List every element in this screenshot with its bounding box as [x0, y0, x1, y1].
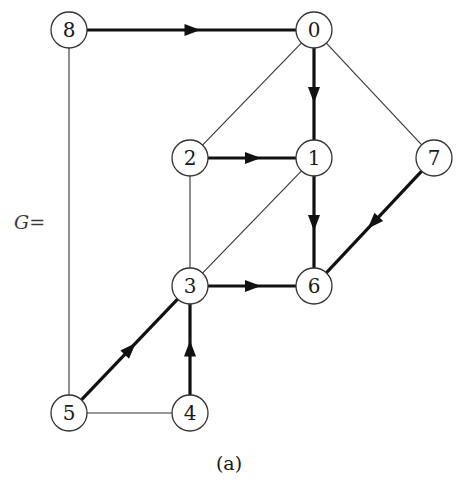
node-label: 5 [63, 401, 76, 425]
edge-0-7 [326, 43, 421, 145]
directed-edge-0-1 [308, 48, 320, 140]
node-5: 5 [51, 395, 87, 431]
arrowhead-icon [308, 87, 320, 103]
directed-edge-1-6 [308, 176, 320, 268]
arrowhead-icon [245, 152, 261, 164]
directed-edge-5-3 [81, 299, 177, 400]
node-6: 6 [296, 268, 332, 304]
node-7: 7 [416, 140, 452, 176]
arrowhead-icon [185, 24, 201, 36]
graph-diagram: 802173654 G= (a) [0, 0, 458, 495]
node-3: 3 [172, 268, 208, 304]
node-0: 0 [296, 12, 332, 48]
node-label: 4 [184, 401, 197, 425]
edge-1-3 [203, 171, 302, 273]
arrowhead-icon [245, 280, 261, 292]
directed-edge-2-1 [208, 152, 296, 164]
node-label: 1 [308, 146, 321, 170]
directed-edge-3-6 [208, 280, 296, 292]
node-2: 2 [172, 140, 208, 176]
node-label: 0 [308, 18, 321, 42]
node-label: 3 [184, 274, 197, 298]
directed-edge-4-3 [184, 304, 196, 395]
node-label: 8 [63, 18, 76, 42]
directed-edge-7-6 [326, 171, 421, 273]
node-4: 4 [172, 395, 208, 431]
directed-edge-8-0 [87, 24, 296, 36]
node-label: 6 [308, 274, 321, 298]
edge-0-2 [203, 43, 302, 145]
arrowhead-icon [184, 341, 196, 357]
arrowhead-icon [308, 215, 320, 231]
node-label: 2 [184, 146, 197, 170]
node-8: 8 [51, 12, 87, 48]
graph-name-label: G= [14, 211, 45, 233]
node-label: 7 [428, 146, 441, 170]
figure-caption: (a) [216, 452, 242, 474]
edges-layer [69, 24, 422, 413]
node-1: 1 [296, 140, 332, 176]
